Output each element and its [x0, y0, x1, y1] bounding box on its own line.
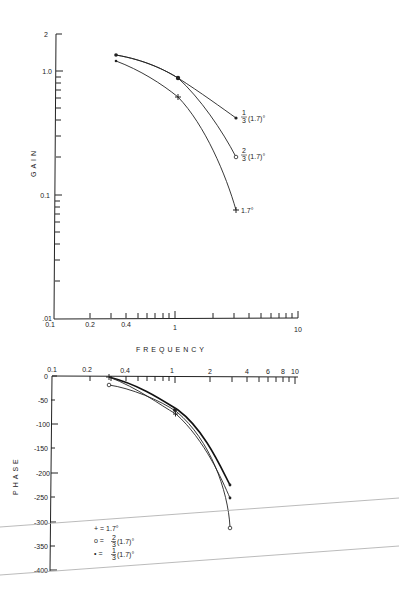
gain-y-axis — [54, 34, 56, 319]
gain-xtick-10: 10 — [294, 326, 302, 333]
svg-text:(1.7)°: (1.7)° — [248, 153, 265, 161]
phase-xtick-8: 8 — [281, 368, 285, 375]
circle-marker-icon — [234, 155, 238, 159]
svg-text:2: 2 — [242, 147, 246, 154]
gain-ytick-0.1: 0.1 — [40, 192, 50, 199]
circle-marker-icon — [228, 526, 232, 530]
plus-marker-icon — [233, 207, 239, 213]
legend-circle-prefix: o = — [94, 537, 104, 544]
gain-xtick-0.2: 0.2 — [85, 321, 95, 328]
phase-ytick-200: -200 — [36, 470, 50, 477]
phase-ytick-150: -150 — [34, 445, 48, 452]
dot-marker-icon — [234, 116, 237, 119]
svg-text:3: 3 — [242, 117, 246, 124]
legend-dot-prefix: • = — [94, 550, 102, 557]
phase-xtick-0.4: 0.4 — [120, 367, 130, 374]
gain-x-axis — [54, 318, 298, 319]
phase-ytick-400: -400 — [34, 567, 48, 574]
dot-marker-icon — [173, 408, 177, 412]
phase-ytick-250: -250 — [34, 494, 48, 501]
gain-plot: 2 1.0 0.1 .01 0.1 0.2 0.4 1 — [30, 31, 302, 354]
phase-ytick-0: 0 — [44, 373, 48, 380]
gain-xtick-0.1: 0.1 — [45, 321, 55, 328]
dot-marker-icon — [229, 484, 232, 487]
phase-curve-third — [109, 377, 230, 485]
dot-marker-icon — [114, 53, 118, 57]
phase-curve-full — [109, 377, 230, 498]
phase-legend: + = 1.7° o = 2 3 (1.7)° • = 1 3 (1.7)° — [94, 525, 134, 561]
plus-marker-icon — [229, 497, 232, 500]
phase-curve-twothird — [109, 385, 230, 527]
phase-xtick-6: 6 — [266, 368, 270, 375]
svg-text:3: 3 — [242, 155, 246, 162]
phase-y-label: PHASE — [12, 456, 19, 495]
legend-plus: + = 1.7° — [94, 525, 119, 532]
annotation-twothird: 2 3 (1.7)° — [241, 147, 265, 162]
gain-ytick-1: 1.0 — [42, 68, 52, 75]
gain-x-label: FREQUENCY — [136, 346, 207, 354]
plus-marker-icon — [115, 60, 118, 63]
gain-curve-third — [116, 55, 236, 118]
phase-xtick-2: 2 — [208, 368, 212, 375]
gain-y-label: GAIN — [30, 148, 37, 177]
gain-xtick-0.4: 0.4 — [121, 321, 131, 328]
svg-text:2: 2 — [112, 534, 116, 541]
phase-plot: 0.1 0.2 0.4 1 2 4 6 8 10 0 -50 -100 -150… — [12, 366, 299, 574]
gain-curve-full — [116, 61, 236, 210]
svg-text:(1.7)°: (1.7)° — [248, 115, 265, 123]
chart-canvas: 2 1.0 0.1 .01 0.1 0.2 0.4 1 — [0, 0, 399, 599]
phase-ytick-100: -100 — [36, 421, 50, 428]
phase-xtick-0.2: 0.2 — [82, 366, 92, 373]
phase-xtick-1: 1 — [170, 367, 174, 374]
svg-text:(1.7)°: (1.7)° — [117, 551, 134, 559]
phase-xtick-4: 4 — [245, 368, 249, 375]
phase-ytick-350: -350 — [34, 543, 48, 550]
circle-marker-icon — [107, 383, 111, 387]
scan-artifact-line — [0, 546, 399, 575]
phase-ytick-50: -50 — [38, 397, 48, 404]
phase-xtick-10: 10 — [291, 368, 299, 375]
phase-xtick-0.1: 0.1 — [47, 366, 57, 373]
gain-ytick-2: 2 — [44, 31, 48, 38]
gain-xtick-1: 1 — [173, 324, 177, 331]
dot-marker-icon — [176, 76, 180, 80]
annotation-full: 1.7° — [241, 207, 254, 214]
svg-text:1: 1 — [242, 109, 246, 116]
svg-text:3: 3 — [112, 554, 116, 561]
svg-text:(1.7)°: (1.7)° — [117, 538, 134, 546]
phase-ytick-300: -300 — [34, 519, 48, 526]
gain-curve-twothird — [116, 55, 236, 157]
annotation-third: 1 3 (1.7)° — [241, 109, 265, 124]
scan-artifact-line — [0, 498, 399, 527]
svg-text:1: 1 — [112, 547, 116, 554]
